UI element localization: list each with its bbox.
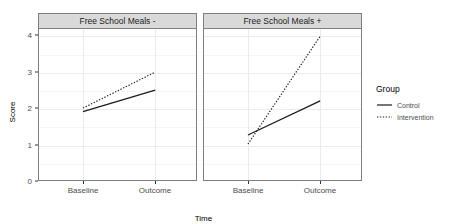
- series-line-intervention: [248, 36, 320, 144]
- series-layer: [39, 29, 196, 180]
- facet-panel-1: Free School Meals +: [203, 13, 362, 181]
- legend-key-solid-icon: [376, 100, 393, 110]
- legend: Group Control Intervention: [376, 84, 451, 123]
- y-tick-label: 3: [16, 67, 32, 76]
- x-axis-title-text: Time: [195, 214, 212, 223]
- x-tick-mark: [83, 181, 84, 184]
- legend-label-intervention: Intervention: [397, 114, 434, 121]
- y-tick-label: 1: [16, 140, 32, 149]
- x-tick-mark: [248, 181, 249, 184]
- x-tick-label: Outcome: [304, 186, 336, 195]
- plot-area-1: [204, 29, 361, 180]
- y-tick-label: 0: [16, 177, 32, 186]
- legend-label-control: Control: [397, 102, 420, 109]
- x-tick-label: Outcome: [139, 186, 171, 195]
- facet-strip-label-0: Free School Meals -: [79, 17, 155, 26]
- legend-title: Group: [376, 84, 451, 94]
- legend-item-intervention: Intervention: [376, 111, 451, 123]
- facet-panel-0: Free School Meals -: [38, 13, 197, 181]
- x-tick-mark: [155, 181, 156, 184]
- x-tick-label: Baseline: [233, 186, 264, 195]
- series-line-control: [83, 90, 155, 112]
- x-tick-mark: [320, 181, 321, 184]
- x-tick-label: Baseline: [68, 186, 99, 195]
- facet-strip-label-1: Free School Meals +: [243, 17, 321, 26]
- legend-key-dotted-icon: [376, 112, 393, 122]
- series-line-control: [248, 101, 320, 135]
- x-axis-title: Time: [0, 214, 451, 223]
- facet-strip-1: Free School Meals +: [204, 14, 361, 29]
- series-layer: [204, 29, 361, 180]
- y-tick-label: 2: [16, 104, 32, 113]
- series-line-intervention: [83, 72, 155, 108]
- chart-root: Score 01234 Free School Meals - Free Sch…: [0, 0, 451, 224]
- y-tick-label: 4: [16, 31, 32, 40]
- facet-strip-0: Free School Meals -: [39, 14, 196, 29]
- plot-area-0: [39, 29, 196, 180]
- y-axis: 01234: [14, 0, 38, 224]
- legend-item-control: Control: [376, 99, 451, 111]
